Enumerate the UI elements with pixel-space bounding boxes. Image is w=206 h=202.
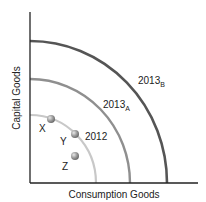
y-axis-label: Capital Goods — [11, 66, 22, 129]
label-2012: 2012 — [85, 131, 108, 142]
point-z — [71, 152, 79, 160]
point-y — [71, 130, 79, 138]
label-y: Y — [60, 136, 67, 147]
ppf-chart: X Y Z 2012 2013A 2013B Consumption Goods… — [0, 0, 206, 202]
label-z: Z — [62, 161, 68, 172]
label-2013a-main: 2013 — [103, 99, 126, 110]
curve-2013b — [30, 41, 167, 183]
point-x — [47, 115, 55, 123]
label-2013a-sub: A — [125, 105, 130, 112]
label-x: X — [39, 123, 46, 134]
label-2013b-main: 2013 — [138, 75, 161, 86]
label-2013b-sub: B — [160, 81, 165, 88]
label-2013b: 2013B — [138, 75, 165, 88]
x-axis-label: Consumption Goods — [68, 189, 159, 200]
label-2013a: 2013A — [103, 99, 130, 112]
